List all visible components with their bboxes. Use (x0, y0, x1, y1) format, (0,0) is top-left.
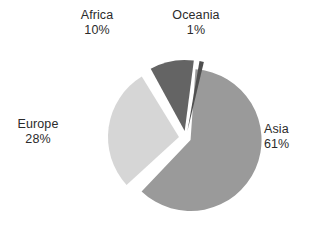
pie-label-asia: Asia 61% (264, 122, 316, 151)
pie-label-africa-value: 10% (64, 23, 130, 38)
pie-slices-group (108, 60, 262, 211)
pie-label-europe-value: 28% (2, 132, 74, 147)
pie-label-africa-name: Africa (64, 8, 130, 23)
pie-label-africa: Africa 10% (64, 8, 130, 37)
pie-label-asia-name: Asia (264, 122, 316, 137)
pie-label-oceania-name: Oceania (158, 8, 234, 23)
pie-label-europe: Europe 28% (2, 117, 74, 146)
pie-label-oceania-value: 1% (158, 23, 234, 38)
pie-label-asia-value: 61% (264, 137, 316, 152)
pie-label-europe-name: Europe (2, 117, 74, 132)
pie-chart: Africa 10% Oceania 1% Europe 28% Asia 61… (0, 0, 319, 229)
pie-label-oceania: Oceania 1% (158, 8, 234, 37)
